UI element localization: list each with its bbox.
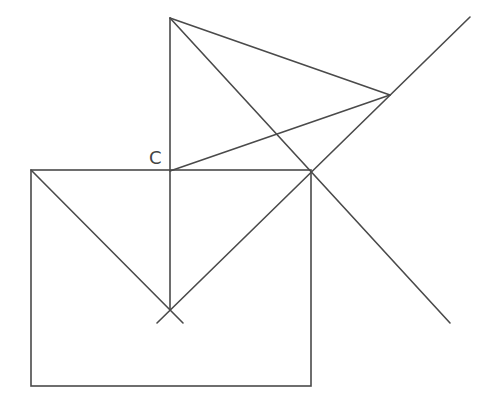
geometry-diagram: C xyxy=(0,0,482,408)
rectangle xyxy=(31,170,311,386)
top-to-right-segment xyxy=(170,18,390,95)
label-c: C xyxy=(149,147,162,168)
rect-diagonal-line xyxy=(31,170,183,323)
c-to-right-segment xyxy=(170,95,390,171)
